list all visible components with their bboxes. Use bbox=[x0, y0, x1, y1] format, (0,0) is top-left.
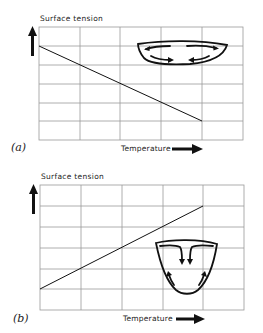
weld-pool-icon-a bbox=[138, 41, 227, 64]
panel-b: Surface tension bbox=[0, 165, 263, 333]
y-axis-arrow-icon-b bbox=[29, 184, 38, 214]
y-axis-arrow-icon-a bbox=[28, 26, 37, 56]
panel-label-b: (b) bbox=[13, 312, 29, 325]
chart-b bbox=[0, 165, 263, 333]
x-axis-arrow-icon-a bbox=[172, 144, 203, 154]
x-axis-label-a: Temperature bbox=[121, 144, 171, 153]
grid-b bbox=[40, 185, 244, 310]
panel-label-a: (a) bbox=[11, 141, 26, 154]
chart-a bbox=[0, 0, 263, 165]
trend-line-b bbox=[40, 206, 203, 289]
panel-a: Surface tension bbox=[0, 0, 263, 165]
x-axis-label-b: Temperature bbox=[123, 314, 173, 323]
flow-arrowheads-b bbox=[166, 259, 207, 277]
trend-line-a bbox=[39, 46, 202, 121]
x-axis-arrow-icon-b bbox=[176, 314, 205, 324]
